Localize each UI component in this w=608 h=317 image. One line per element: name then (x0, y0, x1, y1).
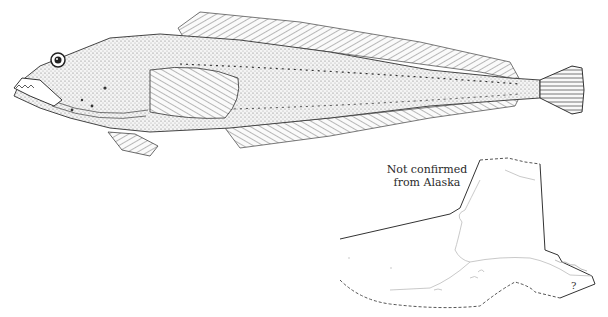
fish-illustration (0, 0, 608, 170)
pelvic-fin (108, 132, 158, 156)
map-annotation: Not confirmed from Alaska (372, 163, 482, 189)
map-note-line1: Not confirmed (372, 163, 482, 176)
uncertain-marker: ? (571, 280, 576, 291)
map-note-line2: from Alaska (372, 176, 482, 189)
pectoral-fin (150, 67, 239, 118)
caudal-fin (540, 66, 584, 114)
canada-border (540, 164, 595, 298)
fish-body (14, 34, 540, 132)
eez-boundary (480, 158, 540, 164)
eez-boundary-south (340, 280, 560, 308)
